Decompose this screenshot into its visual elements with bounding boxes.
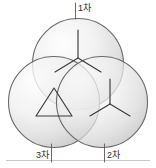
label-tertiary: 3차 xyxy=(36,149,50,160)
label-primary: 1차 xyxy=(78,2,92,13)
transformer-winding-figure: 1차 3차 2차 xyxy=(0,0,156,168)
winding-circle-secondary xyxy=(57,57,148,148)
figure-canvas: 1차 3차 2차 xyxy=(0,0,156,168)
label-secondary: 2차 xyxy=(107,149,121,160)
